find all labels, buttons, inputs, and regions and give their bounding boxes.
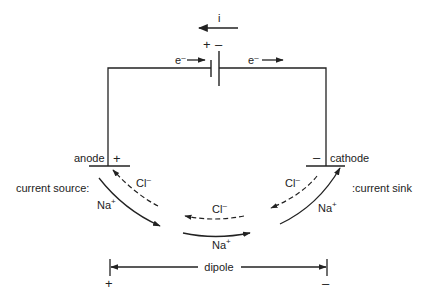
electron-left-charge: – <box>181 53 186 62</box>
na-right-charge: + <box>332 200 337 209</box>
svg-text:e–: e– <box>175 53 186 66</box>
na-left-charge: + <box>111 197 116 206</box>
anode-label: anode <box>74 152 105 164</box>
cl-mid-label: Cl <box>212 203 222 215</box>
dipole-negative-sign: – <box>322 276 330 291</box>
electron-flow-left: e– <box>175 53 205 66</box>
cathode-label: cathode <box>330 152 369 164</box>
anode-electrode: anode + <box>74 151 130 166</box>
dipole-positive-sign: + <box>105 276 113 291</box>
cl-right-charge: – <box>295 175 300 184</box>
cl-mid-charge: – <box>222 201 227 210</box>
svg-text:e–: e– <box>248 53 259 66</box>
current-arrow: i <box>199 12 238 28</box>
electron-flow-right: e– <box>248 53 283 66</box>
svg-text:Cl–: Cl– <box>212 201 227 215</box>
electrochemical-dipole-diagram: i + – e– e– anode + – cathode current so… <box>0 0 428 302</box>
na-right-label: Na <box>318 202 333 214</box>
cl-right-label: Cl <box>285 177 295 189</box>
cathode-sign: – <box>313 150 321 165</box>
current-source-label: current source: <box>16 182 89 194</box>
svg-text:Na+: Na+ <box>97 197 116 211</box>
dipole-span: dipole + – <box>105 259 330 291</box>
na-left-label: Na <box>97 199 112 211</box>
electron-right-charge: – <box>254 53 259 62</box>
na-mid-label: Na <box>212 239 227 251</box>
battery-negative-sign: – <box>215 37 223 52</box>
current-label: i <box>218 12 220 24</box>
battery-icon <box>211 51 219 86</box>
dipole-label: dipole <box>204 261 233 273</box>
circuit-wire <box>108 68 326 166</box>
battery-positive-sign: + <box>203 37 211 52</box>
cathode-electrode: – cathode <box>306 150 369 166</box>
svg-text:Cl–: Cl– <box>285 175 300 189</box>
na-mid-charge: + <box>226 237 231 246</box>
na-flow-middle-arrow-icon <box>183 233 250 237</box>
cl-flow-middle-arrow-icon <box>185 216 244 219</box>
svg-text:Cl–: Cl– <box>136 175 151 189</box>
current-sink-label: :current sink <box>352 182 412 194</box>
cl-left-label: Cl <box>136 177 146 189</box>
svg-text:Na+: Na+ <box>318 200 337 214</box>
cl-left-charge: – <box>146 175 151 184</box>
anode-sign: + <box>113 151 121 166</box>
svg-text:Na+: Na+ <box>212 237 231 251</box>
